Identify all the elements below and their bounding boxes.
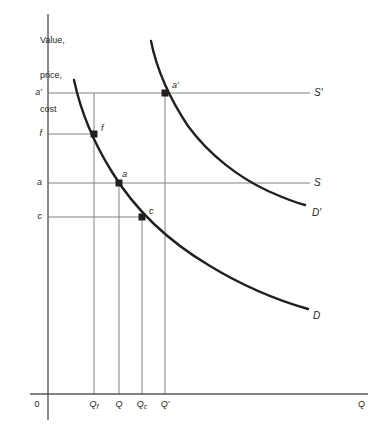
point-label-c: c — [149, 206, 154, 217]
point-marker-a — [116, 180, 123, 187]
x-axis-title: Q — [358, 399, 365, 410]
y-axis-title-line-3: cost — [40, 104, 65, 116]
x-tick-qc-sub: c — [144, 403, 148, 410]
y-axis-title-line-1: Value, — [40, 35, 65, 47]
point-label-a-prime: a′ — [172, 80, 179, 91]
point-label-f: f — [101, 123, 104, 134]
x-tick-label-q-prime: Q′ — [153, 399, 177, 410]
x-tick-label-q: Q — [107, 399, 131, 410]
series-label-d-prime: D′ — [312, 207, 321, 218]
series-label-s: S — [314, 177, 321, 188]
x-tick-qf-sub: f — [97, 403, 99, 410]
x-tick-label-qf: Qf — [82, 399, 106, 410]
y-tick-label-c: c — [20, 211, 42, 222]
origin-label: 0 — [30, 399, 44, 410]
curve-d-prime — [151, 41, 305, 205]
point-label-a: a — [122, 169, 127, 180]
x-tick-qf-base: Q — [90, 399, 97, 409]
series-label-s-prime: S′ — [314, 87, 323, 98]
point-marker-c — [139, 214, 146, 221]
economics-supply-demand-chart: Value, price, cost a′ f a c 0 Qf Q Qc Q′… — [0, 0, 385, 437]
y-axis-title-line-2: price, — [40, 70, 65, 82]
x-tick-qc-base: Q — [137, 399, 144, 409]
x-tick-label-qc: Qc — [130, 399, 154, 410]
point-marker-a-prime — [162, 90, 169, 97]
curve-d — [74, 80, 308, 309]
y-tick-label-a-prime: a′ — [20, 87, 42, 98]
y-tick-label-f: f — [20, 128, 42, 139]
point-marker-f — [91, 131, 98, 138]
series-label-d: D — [313, 310, 320, 321]
y-axis-title: Value, price, cost — [40, 12, 65, 139]
y-tick-label-a: a — [20, 177, 42, 188]
